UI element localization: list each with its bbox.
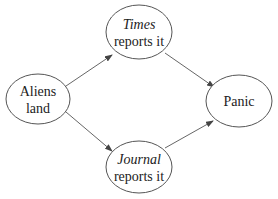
edge-journal-to-panic — [165, 121, 213, 148]
node-panic-label: Panic — [223, 94, 254, 109]
node-aliens-land: Aliens land — [6, 74, 70, 124]
node-times-label-line1: Times — [123, 17, 156, 32]
node-aliens-label-line1: Aliens — [20, 84, 57, 99]
edge-aliens-to-journal — [66, 112, 112, 151]
edge-aliens-to-times — [66, 55, 112, 86]
node-journal-label-line2: reports it — [114, 169, 164, 184]
edge-times-to-panic — [165, 53, 214, 87]
node-times-reports: Times reports it — [106, 5, 172, 59]
node-times-label-line2: reports it — [114, 34, 164, 49]
causal-diagram: Aliens land Times reports it Journal rep… — [0, 0, 278, 199]
node-journal-reports: Journal reports it — [106, 141, 172, 193]
node-aliens-label-line2: land — [26, 101, 50, 116]
node-panic: Panic — [206, 75, 272, 127]
node-journal-label-line1: Journal — [117, 152, 161, 167]
